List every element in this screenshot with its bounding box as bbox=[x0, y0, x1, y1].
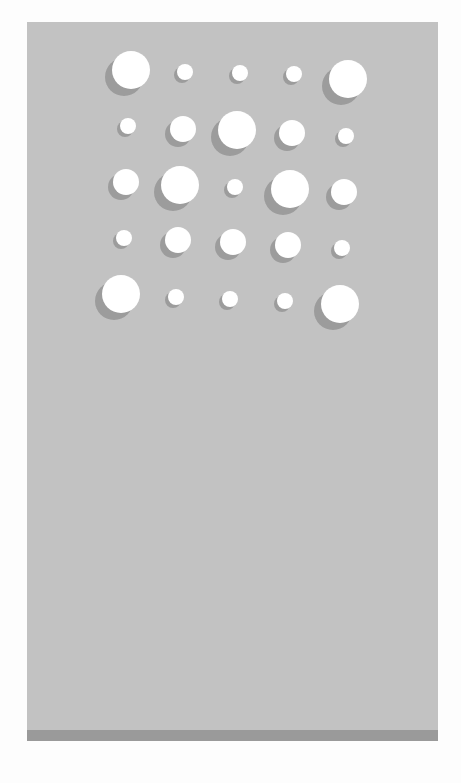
white-dot bbox=[331, 179, 357, 205]
white-dot bbox=[220, 229, 246, 255]
white-dot bbox=[222, 291, 238, 307]
white-dot bbox=[168, 289, 184, 305]
white-dot bbox=[277, 293, 293, 309]
white-dot bbox=[165, 227, 191, 253]
white-dot bbox=[120, 118, 136, 134]
white-dot bbox=[279, 120, 305, 146]
white-dot bbox=[227, 179, 243, 195]
white-dot bbox=[113, 169, 139, 195]
white-dot bbox=[170, 116, 196, 142]
white-dot bbox=[102, 275, 140, 313]
white-dot bbox=[116, 230, 132, 246]
white-dot bbox=[112, 51, 150, 89]
white-dot bbox=[329, 60, 367, 98]
white-dot bbox=[286, 66, 302, 82]
white-dot bbox=[321, 285, 359, 323]
white-dot bbox=[232, 65, 248, 81]
white-dot bbox=[275, 232, 301, 258]
white-dot bbox=[271, 170, 309, 208]
white-dot bbox=[218, 111, 256, 149]
white-dot bbox=[338, 128, 354, 144]
white-dot bbox=[177, 64, 193, 80]
white-dot bbox=[161, 166, 199, 204]
bottom-band bbox=[27, 730, 438, 741]
white-dot bbox=[334, 240, 350, 256]
